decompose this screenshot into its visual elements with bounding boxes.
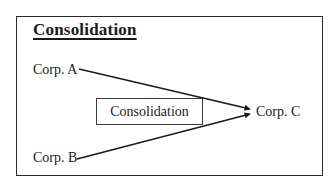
arrow-b-to-c: [77, 114, 250, 159]
arrow-a-to-c: [79, 69, 250, 109]
arrows-layer: [0, 0, 334, 191]
